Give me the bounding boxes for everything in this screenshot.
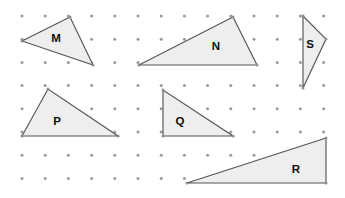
grid-dot [137, 131, 140, 134]
grid-dot [276, 15, 279, 18]
triangle-q-vertex [162, 89, 165, 92]
triangle-s-outline[interactable] [303, 16, 326, 88]
grid-dot [67, 61, 70, 64]
triangle-m[interactable]: M [21, 16, 95, 67]
triangle-q[interactable]: Q [162, 89, 235, 138]
grid-dot [299, 131, 302, 134]
triangle-s-vertex [302, 87, 305, 90]
triangle-q-outline[interactable] [163, 90, 233, 136]
grid-dot [206, 84, 209, 87]
grid-dot [206, 107, 209, 110]
grid-dot [113, 61, 116, 64]
grid-dot [113, 107, 116, 110]
triangle-n-vertex [232, 16, 235, 19]
grid-dot [253, 131, 256, 134]
grid-dot [160, 107, 163, 110]
grid-dot [21, 15, 24, 18]
grid-dot [67, 84, 70, 87]
triangle-s-vertex [302, 15, 305, 18]
grid-dot [299, 38, 302, 41]
grid-dot [253, 38, 256, 41]
grid-dot [160, 84, 163, 87]
grid-dot [276, 131, 279, 134]
triangle-p-label: P [53, 115, 61, 127]
grid-dot [44, 177, 47, 180]
grid-dot [137, 15, 140, 18]
triangle-n[interactable]: N [138, 16, 259, 67]
triangle-p-vertex [47, 88, 50, 91]
grid-dot [253, 84, 256, 87]
grid-dot [44, 15, 47, 18]
grid-dot [183, 15, 186, 18]
grid-dot [137, 154, 140, 157]
triangles-layer: MNSPQR [21, 15, 328, 185]
grid-dot [90, 177, 93, 180]
grid-dot [253, 15, 256, 18]
dot-grid-triangle-worksheet: MNSPQR [0, 0, 345, 198]
grid-dot [183, 84, 186, 87]
grid-dot [206, 15, 209, 18]
grid-dot [113, 15, 116, 18]
triangle-r-label: R [292, 163, 301, 175]
grid-dot [160, 154, 163, 157]
grid-dot [276, 84, 279, 87]
grid-dot [21, 84, 24, 87]
triangle-n-vertex [138, 64, 141, 67]
triangle-m-vertex [69, 16, 72, 19]
grid-dot [90, 15, 93, 18]
grid-dot [229, 131, 232, 134]
triangle-p-vertex [117, 135, 120, 138]
grid-dot [253, 107, 256, 110]
grid-dot [113, 177, 116, 180]
triangle-r-outline[interactable] [187, 138, 326, 183]
grid-dot [67, 177, 70, 180]
grid-dot [137, 38, 140, 41]
triangle-r-vertex [325, 182, 328, 185]
triangle-q-vertex [232, 135, 235, 138]
triangle-n-outline[interactable] [139, 17, 257, 65]
grid-dot [44, 84, 47, 87]
grid-dot [21, 177, 24, 180]
grid-dot [21, 107, 24, 110]
grid-dot [137, 61, 140, 64]
triangle-r-vertex [186, 182, 189, 185]
grid-dot [229, 84, 232, 87]
figure-canvas: MNSPQR [0, 0, 345, 198]
grid-dot [113, 84, 116, 87]
triangle-r[interactable]: R [186, 137, 328, 185]
grid-dot [44, 154, 47, 157]
grid-dot [322, 107, 325, 110]
grid-dot [113, 154, 116, 157]
grid-dot [322, 15, 325, 18]
triangle-s-label: S [306, 38, 314, 50]
grid-dot [322, 131, 325, 134]
grid-dot [183, 38, 186, 41]
triangle-q-vertex [162, 135, 165, 138]
grid-dot [137, 84, 140, 87]
triangle-p-vertex [21, 135, 24, 138]
grid-dot [183, 177, 186, 180]
grid-dot [90, 38, 93, 41]
grid-dot [160, 38, 163, 41]
triangle-p[interactable]: P [21, 88, 120, 138]
grid-dot [299, 61, 302, 64]
triangle-m-label: M [51, 32, 61, 44]
triangle-p-outline[interactable] [22, 89, 118, 136]
grid-dot [206, 154, 209, 157]
grid-dot [90, 107, 93, 110]
triangle-s[interactable]: S [302, 15, 328, 90]
triangle-s-vertex [325, 38, 328, 41]
grid-dot [276, 61, 279, 64]
triangle-q-label: Q [176, 115, 185, 127]
grid-dot [90, 154, 93, 157]
grid-dot [299, 84, 302, 87]
triangle-m-vertex [92, 64, 95, 67]
grid-dot [113, 38, 116, 41]
grid-dot [322, 61, 325, 64]
grid-dot [137, 177, 140, 180]
grid-dot [299, 107, 302, 110]
grid-dot [160, 177, 163, 180]
grid-dot [160, 131, 163, 134]
grid-dot [67, 154, 70, 157]
grid-dot [229, 107, 232, 110]
